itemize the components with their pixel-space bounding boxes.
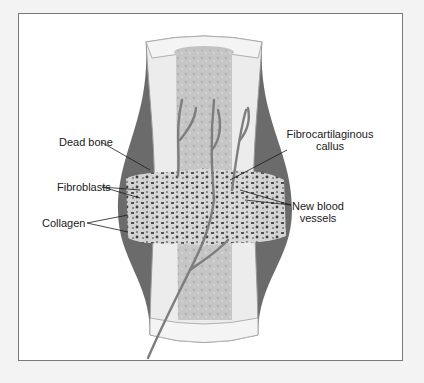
label-fibrocartilaginous-callus-line2: callus (275, 140, 385, 152)
label-new-blood-vessels-line2: vessels (288, 212, 348, 224)
label-fibroblasts: Fibroblasts (57, 181, 111, 193)
label-fibrocartilaginous-callus-line1: Fibrocartilaginous (275, 128, 385, 140)
label-new-blood-vessels: New blood vessels (288, 200, 348, 224)
label-dead-bone: Dead bone (59, 136, 113, 148)
label-fibrocartilaginous-callus: Fibrocartilaginous callus (275, 128, 385, 152)
label-collagen: Collagen (42, 217, 85, 229)
label-new-blood-vessels-line1: New blood (288, 200, 348, 212)
